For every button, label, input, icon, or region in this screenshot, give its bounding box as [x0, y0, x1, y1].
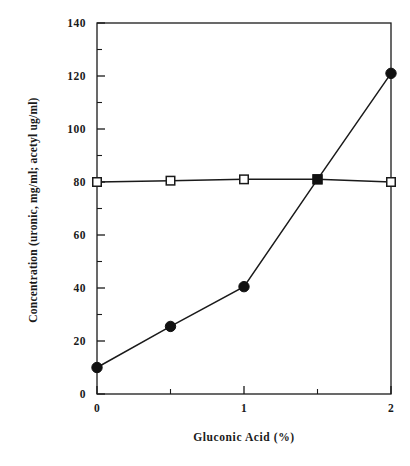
data-point-s0-1	[165, 321, 175, 331]
x-tick-label-1: 1	[241, 402, 247, 414]
y-tick-label-0: 0	[52, 388, 86, 400]
y-axis-minor-ticks	[97, 50, 102, 368]
data-series-layer	[92, 68, 396, 373]
x-axis-major-ticks	[97, 386, 391, 394]
y-tick-label-40: 40	[52, 282, 86, 294]
y-tick-label-60: 60	[52, 229, 86, 241]
x-tick-label-2: 2	[388, 402, 394, 414]
data-point-s1-0	[93, 178, 102, 187]
series-line-0	[97, 73, 391, 367]
data-point-s1-2	[240, 175, 249, 184]
y-tick-label-100: 100	[48, 123, 86, 135]
data-point-overlap-3	[313, 175, 323, 185]
data-point-s1-1	[166, 176, 175, 185]
y-tick-label-20: 20	[52, 335, 86, 347]
chart-figure: Concentration (uronic, mg/ml; acetyl ug/…	[0, 0, 410, 466]
x-axis-title: Gluconic Acid (%)	[97, 431, 391, 443]
x-tick-label-0: 0	[94, 402, 100, 414]
y-tick-label-80: 80	[52, 176, 86, 188]
data-point-s1-4	[387, 178, 396, 187]
y-axis-title: Concentration (uronic, mg/ml; acetyl ug/…	[22, 20, 44, 400]
data-point-s0-4	[386, 68, 396, 78]
y-tick-label-140: 140	[48, 17, 86, 29]
plot-frame	[97, 23, 391, 394]
data-point-s0-2	[239, 281, 249, 291]
y-tick-label-120: 120	[48, 70, 86, 82]
data-point-s0-0	[92, 362, 102, 372]
